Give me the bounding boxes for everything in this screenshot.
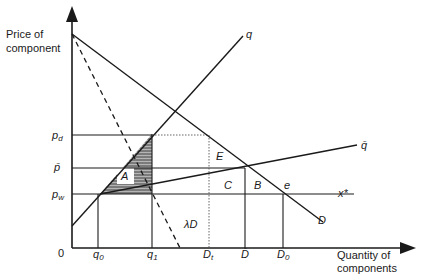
- y-axis-arrow: [66, 6, 78, 22]
- curve-label-d: D: [318, 214, 326, 226]
- scaled-demand-curve: [72, 34, 180, 248]
- curve-label-q: q: [246, 28, 253, 40]
- quantity-label-q1: q1: [147, 248, 158, 262]
- quantity-label-dbar: D̄: [241, 248, 249, 260]
- x-axis-label-line1: Quantity of: [337, 249, 391, 261]
- supply-curve-q: [72, 36, 243, 226]
- y-axis-label-line2: component: [6, 42, 60, 54]
- y-axis-label-line1: Price of: [6, 28, 44, 40]
- region-label-e: E: [216, 150, 224, 162]
- diagram: Price of component Quantity of component…: [0, 0, 424, 278]
- curve-label-x-star: x*: [337, 187, 349, 199]
- quantity-label-q0: q0: [93, 248, 104, 262]
- quantity-label-d0: D0: [277, 248, 290, 262]
- x-axis-label-line2: components: [337, 262, 397, 274]
- region-label-e-point: e: [284, 179, 290, 191]
- quantity-label-dt: Dt: [203, 248, 214, 262]
- curve-label-lambda-d: λD: [183, 218, 197, 230]
- origin-label: 0: [58, 247, 64, 259]
- curve-label-qbar: q̄: [361, 139, 368, 151]
- region-label-c: C: [224, 179, 232, 191]
- x-axis-arrow: [400, 242, 416, 254]
- region-label-b: B: [254, 179, 261, 191]
- price-label-pd: pd: [51, 129, 63, 143]
- price-label-pbar: p̄: [53, 161, 60, 173]
- region-label-a: A: [120, 170, 128, 182]
- price-label-pw: pw: [51, 188, 65, 202]
